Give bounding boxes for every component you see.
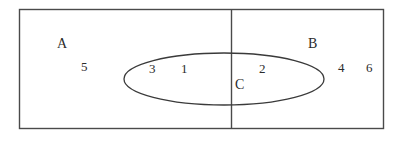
region-number-2: 2 (259, 62, 266, 75)
region-number-5: 5 (81, 60, 88, 73)
universe-rectangle (20, 10, 384, 129)
set-label-b: B (308, 37, 317, 51)
region-number-6: 6 (366, 61, 373, 74)
region-number-4: 4 (338, 61, 345, 74)
set-label-c: C (235, 78, 244, 92)
venn-diagram-canvas: A B C 5 3 1 2 4 6 (0, 0, 404, 141)
set-label-a: A (57, 37, 67, 51)
region-number-1: 1 (181, 62, 188, 75)
region-number-3: 3 (149, 62, 156, 75)
